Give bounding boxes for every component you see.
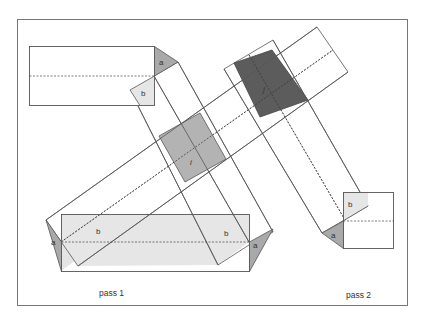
label-a-right: a <box>331 231 336 240</box>
shear-rotation-diagram: i j a b b b a a b a pass 1 pass 2 <box>0 0 425 320</box>
label-a-top: a <box>159 58 164 67</box>
label-a-bottom-right: a <box>253 241 258 250</box>
label-b-top: b <box>141 89 146 98</box>
label-j: j <box>262 85 265 94</box>
caption-pass1: pass 1 <box>99 288 124 298</box>
label-b-bottom-right: b <box>224 229 229 238</box>
label-a-bottom-left: a <box>51 238 56 247</box>
label-i: i <box>190 158 192 167</box>
label-b-right: b <box>348 200 353 209</box>
label-b-bottom-left: b <box>96 227 101 236</box>
caption-pass2: pass 2 <box>346 290 371 300</box>
